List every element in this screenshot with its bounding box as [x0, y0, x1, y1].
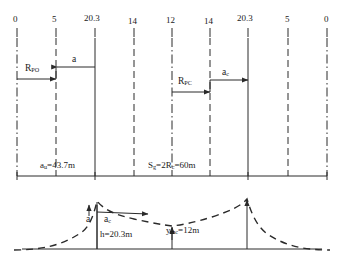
tick-label-20.3-left: 20.3 — [84, 14, 100, 23]
ymax-sub: mc — [171, 228, 179, 235]
tick-label-20.3-right: 20.3 — [237, 14, 253, 23]
label-r-po: RPO — [25, 64, 39, 74]
tick-label-14-left: 14 — [128, 17, 137, 26]
label-r-pc-sub: PC — [184, 79, 192, 86]
label-center-span-dimension: Sg=2Rc=60m — [148, 161, 196, 171]
tick-label-12-center: 12 — [166, 16, 175, 25]
tick-label-0-right: 0 — [324, 15, 329, 24]
label-a-bottom-base: a — [86, 214, 90, 224]
center-span-mid: =2R — [156, 160, 172, 170]
ruler-tick-marks — [17, 28, 327, 37]
label-r-pc: RPC — [178, 77, 192, 87]
label-a-c-right-sub: c — [226, 70, 229, 77]
tick-label-5-left: 5 — [52, 15, 57, 24]
diagram-canvas: 0 5 20.3 14 12 14 20.3 5 0 RPO a RPC ac … — [0, 0, 344, 264]
label-a-bottom: a — [86, 215, 90, 225]
label-r-po-sub: PO — [31, 66, 39, 73]
diagram-vector-layer — [0, 0, 344, 264]
left-span-value: =43.7m — [47, 160, 75, 170]
label-a-left: a — [72, 55, 76, 65]
label-a-left-base: a — [72, 54, 76, 64]
label-a-c-bottom: ac — [104, 215, 111, 225]
label-ymax: ymc=12m — [166, 226, 199, 236]
label-left-span-dimension: au=43.7m — [40, 161, 75, 171]
tick-label-5-right: 5 — [285, 15, 290, 24]
ymax-value: =12m — [178, 225, 199, 235]
vertical-reference-lines — [17, 38, 327, 176]
tick-label-0-left: 0 — [13, 15, 18, 24]
tick-label-14-right: 14 — [204, 17, 213, 26]
label-a-c-right: ac — [222, 68, 229, 78]
label-a-c-bottom-sub: c — [108, 217, 111, 224]
center-span-value: =60m — [174, 160, 195, 170]
label-profile-height: h=20.3m — [100, 230, 132, 239]
